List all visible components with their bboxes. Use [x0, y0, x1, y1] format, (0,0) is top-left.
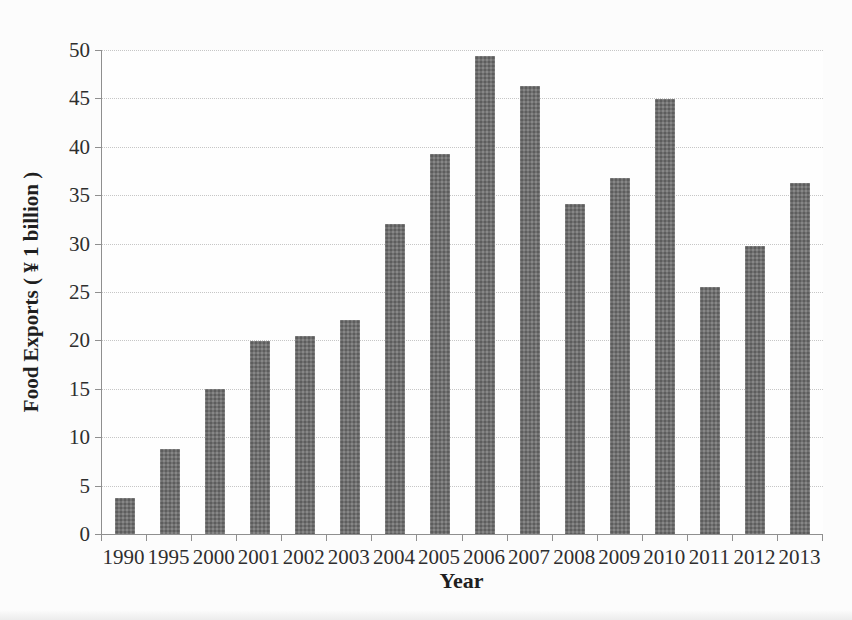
x-tick-label: 2007	[507, 545, 552, 569]
bar	[610, 178, 630, 534]
x-axis-tick	[642, 535, 643, 541]
y-axis-tick	[95, 389, 101, 390]
y-tick-label: 10	[48, 425, 90, 449]
x-tick-label: 2002	[281, 545, 326, 569]
bar	[700, 287, 720, 534]
bar	[115, 498, 135, 534]
y-tick-label: 50	[48, 38, 90, 62]
x-tick-label: 2008	[552, 545, 597, 569]
x-axis-tick	[687, 535, 688, 541]
gridline	[102, 98, 823, 99]
x-tick-label: 2001	[236, 545, 281, 569]
y-tick-label: 0	[48, 522, 90, 546]
x-tick-label: 2013	[777, 545, 822, 569]
gridline	[102, 195, 823, 196]
gridline	[102, 244, 823, 245]
x-axis-tick	[597, 535, 598, 541]
x-axis-tick	[371, 535, 372, 541]
bar	[565, 204, 585, 534]
x-axis-tick	[416, 535, 417, 541]
bar	[385, 224, 405, 534]
bar	[340, 320, 360, 534]
y-axis-tick	[95, 437, 101, 438]
bar	[520, 86, 540, 534]
bar	[160, 449, 180, 534]
y-tick-label: 20	[48, 328, 90, 352]
x-tick-label: 2003	[326, 545, 371, 569]
x-tick-label: 2012	[732, 545, 777, 569]
y-axis-tick	[95, 50, 101, 51]
bar	[745, 246, 765, 534]
x-tick-label: 2004	[371, 545, 416, 569]
bar	[475, 56, 495, 534]
bar	[655, 99, 675, 534]
x-tick-label: 1990	[101, 545, 146, 569]
x-axis-tick	[236, 535, 237, 541]
x-axis-tick	[146, 535, 147, 541]
x-tick-label: 2000	[191, 545, 236, 569]
y-axis-title: Food Exports ( ¥ 1 billion )	[19, 172, 44, 412]
x-axis-tick	[822, 535, 823, 541]
y-tick-label: 40	[48, 135, 90, 159]
y-tick-label: 25	[48, 280, 90, 304]
x-axis-tick	[507, 535, 508, 541]
y-axis-tick	[95, 292, 101, 293]
x-axis-title: Year	[101, 568, 822, 594]
y-axis-tick	[95, 195, 101, 196]
x-axis-tick	[281, 535, 282, 541]
y-tick-label: 35	[48, 183, 90, 207]
y-axis-tick	[95, 340, 101, 341]
x-tick-label: 1995	[146, 545, 191, 569]
bar	[205, 389, 225, 534]
x-axis-tick	[462, 535, 463, 541]
bar	[790, 183, 810, 534]
x-axis-tick	[552, 535, 553, 541]
x-tick-label: 2006	[462, 545, 507, 569]
x-axis-tick	[777, 535, 778, 541]
x-axis-tick	[101, 535, 102, 541]
y-axis-tick	[95, 486, 101, 487]
scan-artifact	[0, 610, 852, 620]
gridline	[102, 147, 823, 148]
x-tick-label: 2011	[687, 545, 732, 569]
y-tick-label: 15	[48, 377, 90, 401]
plot-area	[101, 50, 823, 535]
x-tick-label: 2009	[597, 545, 642, 569]
y-axis-tick	[95, 147, 101, 148]
bar	[430, 154, 450, 534]
y-axis-tick	[95, 98, 101, 99]
bar	[250, 341, 270, 534]
gridline	[102, 50, 823, 51]
y-tick-label: 45	[48, 86, 90, 110]
bar	[295, 336, 315, 534]
y-tick-label: 30	[48, 232, 90, 256]
y-axis-tick	[95, 244, 101, 245]
x-tick-label: 2010	[642, 545, 687, 569]
bar-chart: Food Exports ( ¥ 1 billion ) 05101520253…	[0, 0, 852, 620]
y-tick-label: 5	[48, 474, 90, 498]
x-axis-tick	[191, 535, 192, 541]
x-axis-tick	[732, 535, 733, 541]
x-axis-tick	[326, 535, 327, 541]
x-tick-label: 2005	[416, 545, 461, 569]
